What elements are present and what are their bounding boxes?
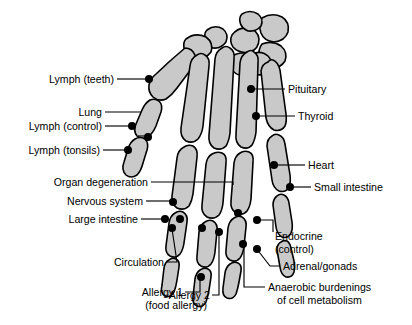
thumb-proximal-phalanx <box>135 99 162 138</box>
ring-middle-phalanx <box>226 216 246 261</box>
marker-small-intestine <box>286 183 294 191</box>
label-lymph-teeth: Lymph (teeth) <box>49 73 114 85</box>
ring-metacarpal <box>236 51 258 149</box>
label-endocrine-control-2: (control) <box>275 243 314 255</box>
marker-allergy-1-a <box>198 224 206 232</box>
marker-lymph-teeth <box>145 75 153 83</box>
middle-proximal-phalanx <box>202 152 226 218</box>
label-adrenal-gonads: Adrenal/gonads <box>283 260 357 272</box>
marker-circulation <box>168 224 176 232</box>
thumb-distal-phalanx <box>123 138 148 178</box>
marker-lymph-tonsils <box>124 146 132 154</box>
pinky-metacarpal <box>261 60 286 131</box>
label-nervous-system: Nervous system <box>67 195 143 207</box>
label-small-intestine: Small intestine <box>314 181 383 193</box>
hand-skeleton-illustration: Lymph (teeth) Lung Lymph (control) Lymph… <box>0 0 412 325</box>
marker-allergy-1-c <box>197 273 205 281</box>
label-large-intestine: Large intestine <box>69 213 139 225</box>
marker-pituitary <box>247 85 255 93</box>
label-heart: Heart <box>308 159 334 171</box>
middle-metacarpal <box>209 47 234 150</box>
label-organ-degeneration: Organ degeneration <box>54 176 148 188</box>
ring-proximal-phalanx <box>231 151 253 214</box>
carpal-bone-2 <box>260 15 289 42</box>
marker-adrenal-gonads <box>253 245 261 253</box>
hand-reflex-diagram: Lymph (teeth) Lung Lymph (control) Lymph… <box>0 0 412 325</box>
label-pituitary: Pituitary <box>288 83 327 95</box>
marker-heart <box>270 161 278 169</box>
ring-distal-phalanx <box>223 262 241 298</box>
marker-lung <box>144 133 152 141</box>
label-thyroid: Thyroid <box>298 110 333 122</box>
label-lung: Lung <box>78 106 102 118</box>
label-anaerobic-2: of cell metabolism <box>277 294 362 306</box>
marker-allergy-1-b <box>215 228 223 236</box>
label-anaerobic-1: Anaerobic burdenings <box>268 281 371 293</box>
label-circulation: Circulation <box>114 256 164 268</box>
marker-anaerobic <box>239 240 247 248</box>
marker-thyroid <box>252 112 260 120</box>
marker-ring-base <box>234 209 242 217</box>
marker-organ-degeneration <box>176 215 184 223</box>
label-lymph-control: Lymph (control) <box>29 120 102 132</box>
label-endocrine-control-1: Endocrine <box>275 230 323 242</box>
marker-lymph-control <box>128 122 136 130</box>
marker-large-intestine <box>161 215 169 223</box>
carpal-bone-6 <box>240 12 262 32</box>
pinky-proximal-phalanx <box>267 134 290 191</box>
label-allergy-2: Allergy 2 <box>169 289 210 301</box>
marker-nervous-system <box>169 198 177 206</box>
carpal-bone-1 <box>231 28 259 53</box>
marker-endocrine-control <box>253 216 261 224</box>
label-lymph-tonsils: Lymph (tonsils) <box>29 144 100 156</box>
